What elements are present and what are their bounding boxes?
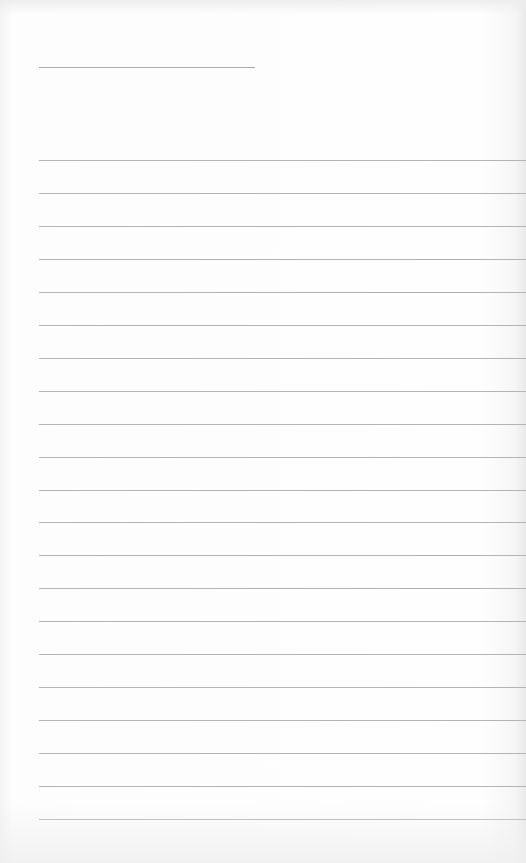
ruled-line xyxy=(39,457,526,458)
lined-paper-sheet xyxy=(0,0,526,863)
ruled-line xyxy=(39,424,526,425)
ruled-line xyxy=(39,391,526,392)
ruled-line xyxy=(39,325,526,326)
title-line xyxy=(39,67,255,68)
ruled-line xyxy=(39,621,526,622)
ruled-line xyxy=(39,654,526,655)
ruled-line xyxy=(39,786,526,787)
ruled-line xyxy=(39,358,526,359)
ruled-line xyxy=(39,259,526,260)
ruled-line xyxy=(39,226,526,227)
ruled-line xyxy=(39,292,526,293)
paper-top-shadow xyxy=(0,0,526,14)
paper-bottom-shadow xyxy=(0,803,526,863)
ruled-line xyxy=(39,555,526,556)
ruled-line xyxy=(39,193,526,194)
ruled-line xyxy=(39,588,526,589)
ruled-line xyxy=(39,160,526,161)
ruled-line xyxy=(39,522,526,523)
ruled-line xyxy=(39,687,526,688)
ruled-line xyxy=(39,720,526,721)
ruled-line xyxy=(39,490,526,491)
ruled-line xyxy=(39,753,526,754)
